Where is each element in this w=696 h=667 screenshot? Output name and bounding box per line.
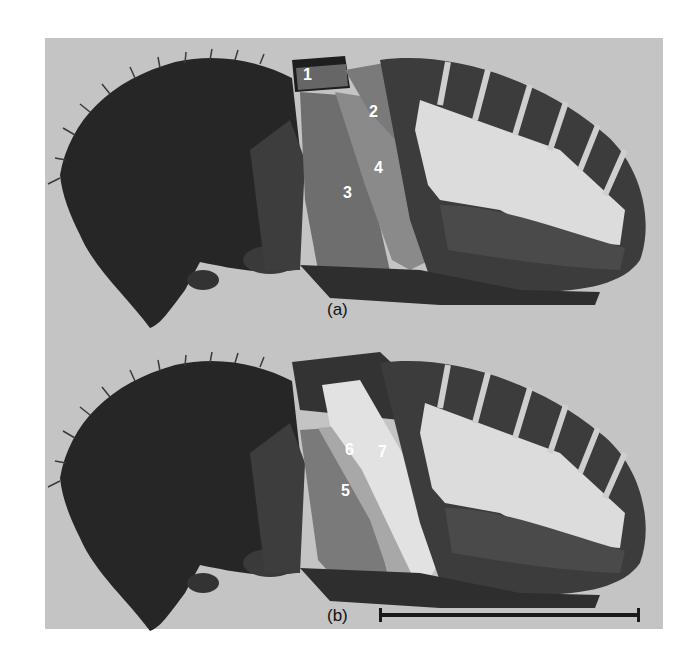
insect-figure: [0, 0, 696, 667]
muscle-label-1: 1: [303, 67, 312, 83]
muscle-label-4: 4: [374, 160, 383, 176]
panel-caption-b: (b): [327, 607, 348, 624]
muscle-label-5: 5: [341, 483, 350, 499]
scale-bar: [379, 613, 640, 617]
muscle-label-2: 2: [369, 104, 378, 120]
muscle-label-6: 6: [345, 442, 354, 458]
muscle-label-3: 3: [343, 185, 352, 201]
muscle-label-7: 7: [378, 444, 387, 460]
panel-caption-a: (a): [327, 301, 348, 318]
